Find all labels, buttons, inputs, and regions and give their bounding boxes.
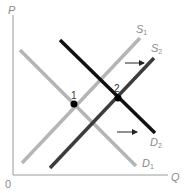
curve-label-s1: S1: [136, 23, 147, 36]
origin-label: 0: [5, 178, 11, 190]
y-axis-label: P: [8, 4, 16, 16]
curve-label-d1: D1: [142, 157, 154, 170]
x-axis-label: Q: [171, 171, 180, 183]
curve-label-s2: S2: [151, 42, 162, 55]
curve-d2: [60, 40, 155, 133]
supply-demand-diagram: P Q 0 D1S1S2D2 12: [0, 0, 190, 193]
equilibrium-label-1: 1: [71, 90, 77, 101]
equilibrium-point-2: [115, 95, 122, 102]
curve-label-d2: D2: [150, 136, 162, 149]
equilibrium-label-2: 2: [114, 83, 120, 94]
equilibrium-point-1: [71, 101, 78, 108]
curve-s2: [50, 58, 154, 168]
